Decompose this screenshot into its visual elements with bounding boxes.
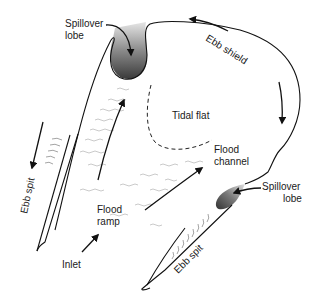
ebb-shield-arrow-right [279,82,282,123]
label-flood-ramp-2: ramp [97,216,120,227]
label-spillover-lobe-right-2: lobe [283,193,302,204]
ebb-shield-shoreline [55,22,300,230]
ebb-spit-left-ripples [45,138,62,164]
label-ebb-shield: Ebb shield [204,32,249,66]
label-spillover-lobe-top-1: Spillover [65,18,104,29]
ebb-shield-arrow-top [190,19,228,31]
label-tidal-flat: Tidal flat [172,110,210,121]
flood-ramp-arrow [98,100,124,180]
spillover-lobe-top-shape [110,22,147,79]
spillover-lobe-right-shape [216,184,245,209]
label-inlet: Inlet [62,259,81,270]
ebb-spit-right-outline [142,205,232,290]
label-flood-ramp-1: Flood [97,204,122,215]
label-flood-channel-1: Flood [214,144,239,155]
ebb-spit-left-outline [37,135,70,251]
label-ebb-spit-left: Ebb spit [18,177,36,215]
ebb-spit-left-arrow [32,122,43,168]
label-spillover-lobe-right-1: Spillover [262,181,301,192]
label-spillover-lobe-top-2: lobe [65,30,84,41]
tidal-delta-diagram: Spillover lobe Ebb shield Tidal flat Flo… [0,0,321,305]
label-flood-channel-2: channel [214,156,249,167]
inlet-arrow [82,235,98,252]
